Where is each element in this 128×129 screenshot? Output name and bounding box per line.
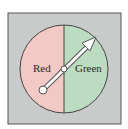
- arrow-tail-icon: [39, 86, 47, 94]
- green-label: Green: [75, 62, 102, 74]
- red-label: Red: [33, 62, 51, 74]
- pivot-icon: [61, 66, 67, 72]
- spinner-diagram: Red Green: [0, 0, 128, 129]
